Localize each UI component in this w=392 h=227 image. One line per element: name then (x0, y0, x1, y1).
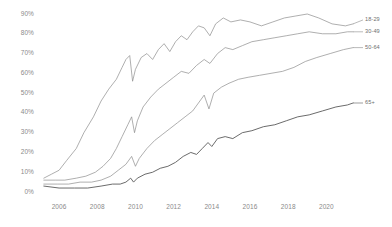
series-line-50-64 (44, 48, 353, 184)
series-label-18-29: 18-29 (365, 17, 380, 23)
y-tick-label: 0% (0, 189, 34, 196)
y-tick-label: 90% (0, 11, 34, 18)
y-tick-label: 40% (0, 109, 34, 116)
chart-container: 0%10%20%30%40%50%60%70%80%90% 2006200820… (0, 0, 392, 227)
x-tick-label: 2008 (77, 204, 117, 211)
x-tick-label: 2016 (230, 204, 270, 211)
series-label-50-64: 50-64 (365, 45, 380, 51)
y-tick-label: 10% (0, 169, 34, 176)
y-tick-label: 20% (0, 149, 34, 156)
line-chart-plot (0, 0, 392, 227)
x-tick-label: 2010 (115, 204, 155, 211)
x-tick-label: 2020 (306, 204, 346, 211)
y-tick-label: 50% (0, 90, 34, 97)
y-tick-label: 70% (0, 50, 34, 57)
y-tick-label: 30% (0, 129, 34, 136)
y-tick-label: 60% (0, 70, 34, 77)
series-label-65plus: 65+ (365, 100, 375, 106)
x-tick-label: 2018 (268, 204, 308, 211)
series-label-30-49: 30-49 (365, 29, 380, 35)
x-tick-label: 2006 (39, 204, 79, 211)
series-line-18-29 (44, 14, 353, 178)
series-line-65plus (44, 103, 353, 188)
series-line-30-49 (44, 32, 353, 180)
y-tick-label: 80% (0, 30, 34, 37)
x-tick-label: 2012 (154, 204, 194, 211)
series-leader-18-29 (353, 20, 363, 24)
x-tick-label: 2014 (192, 204, 232, 211)
